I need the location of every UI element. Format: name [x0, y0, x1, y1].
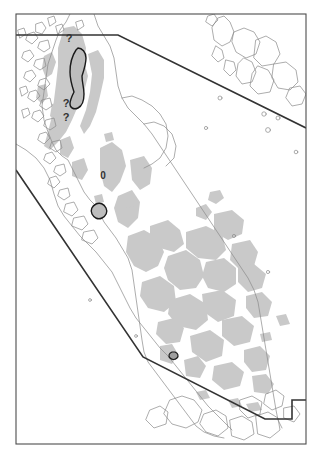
uncertainty-label-mid-upper: ?	[63, 97, 70, 109]
central-core-range	[91, 203, 107, 219]
uncertainty-label-north: ?	[66, 32, 73, 44]
map-canvas: ? ? ? 0	[0, 0, 320, 461]
map-figure: ? ? ? 0	[0, 0, 320, 461]
southern-core-range	[169, 352, 178, 360]
zero-count-label: 0	[100, 170, 106, 181]
uncertainty-label-mid-lower: ?	[63, 111, 70, 123]
